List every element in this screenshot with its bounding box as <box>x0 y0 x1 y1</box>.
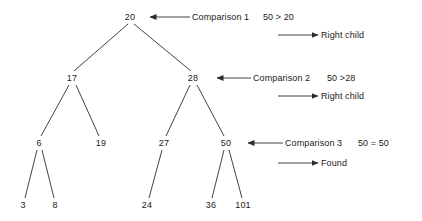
tree-node-24: 24 <box>142 201 152 210</box>
tree-node-17: 17 <box>67 74 77 83</box>
comparison-3-label: Comparison 3 <box>285 139 342 148</box>
tree-node-50: 50 <box>221 139 231 148</box>
comparison-2-label: Comparison 2 <box>253 74 310 83</box>
tree-node-101: 101 <box>235 201 251 210</box>
comparison-2-expression: 50 >28 <box>327 74 355 83</box>
comparison-3-expression: 50 = 50 <box>358 139 389 148</box>
tree-edge-n50-n36 <box>212 150 224 198</box>
tree-node-20: 20 <box>125 13 135 22</box>
result-2-label: Right child <box>321 92 364 101</box>
tree-edge-n6-n3 <box>25 150 37 198</box>
tree-edge-n17-n19 <box>76 85 99 136</box>
tree-edge-n50-n101 <box>229 150 242 198</box>
tree-edge-n28-n50 <box>197 85 224 136</box>
tree-node-27: 27 <box>159 139 169 148</box>
tree-edge-n20-n28 <box>134 24 191 71</box>
tree-node-6: 6 <box>36 139 41 148</box>
bst-search-diagram: 2017286192750382436101 Comparison 150 > … <box>0 0 422 221</box>
tree-node-3: 3 <box>20 201 25 210</box>
result-3-label: Found <box>321 159 347 168</box>
tree-edge-n6-n8 <box>42 150 54 198</box>
tree-edge-n20-n17 <box>74 24 128 71</box>
result-1-label: Right child <box>321 31 364 40</box>
tree-node-28: 28 <box>188 74 198 83</box>
comparison-1-label: Comparison 1 <box>192 13 249 22</box>
tree-edge-n27-n24 <box>149 150 162 198</box>
comparison-1-expression: 50 > 20 <box>263 13 294 22</box>
tree-edge-n17-n6 <box>41 85 69 136</box>
tree-node-36: 36 <box>206 201 216 210</box>
tree-node-8: 8 <box>52 201 57 210</box>
tree-edges <box>25 24 242 198</box>
tree-edge-n28-n27 <box>166 85 190 136</box>
tree-node-19: 19 <box>96 139 106 148</box>
